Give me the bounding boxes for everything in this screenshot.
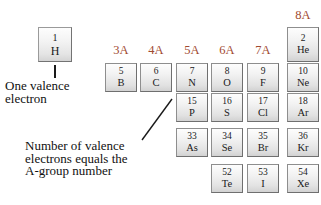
group-header-label: 3A xyxy=(113,43,128,57)
element-cell-bromine[interactable]: 35 Br xyxy=(247,128,279,157)
element-atomic-number: 33 xyxy=(187,132,197,142)
group-header-6a: 6A xyxy=(211,43,243,58)
agroup-note-line-3: A-group number xyxy=(25,165,128,178)
element-cell-phosphorus[interactable]: 15 P xyxy=(176,93,208,122)
element-atomic-number: 34 xyxy=(222,132,232,142)
agroup-annotation: Number of valence electrons equals the A… xyxy=(25,140,128,178)
element-cell-chlorine[interactable]: 17 Cl xyxy=(247,93,279,122)
element-symbol: Ar xyxy=(297,108,308,119)
element-cell-nitrogen[interactable]: 7 N xyxy=(176,63,208,92)
element-cell-boron[interactable]: 5 B xyxy=(105,63,137,92)
element-symbol: P xyxy=(189,108,195,119)
element-atomic-number: 36 xyxy=(298,132,308,142)
element-atomic-number: 10 xyxy=(298,67,308,77)
element-atomic-number: 17 xyxy=(258,97,268,107)
group-header-3a: 3A xyxy=(105,43,137,58)
element-symbol: Te xyxy=(222,179,232,190)
element-atomic-number: 7 xyxy=(190,67,195,77)
element-symbol: As xyxy=(186,143,198,154)
element-symbol: Kr xyxy=(297,143,308,154)
element-cell-selenium[interactable]: 34 Se xyxy=(211,128,243,157)
group-header-label: 7A xyxy=(255,43,270,57)
element-cell-oxygen[interactable]: 8 O xyxy=(211,63,243,92)
group-header-label: 6A xyxy=(219,43,234,57)
element-atomic-number: 53 xyxy=(258,168,268,178)
element-cell-carbon[interactable]: 6 C xyxy=(140,63,172,92)
element-atomic-number: 52 xyxy=(222,168,232,178)
element-symbol: S xyxy=(224,108,230,119)
element-symbol: Se xyxy=(222,143,233,154)
element-symbol: F xyxy=(260,78,266,89)
group-header-5a: 5A xyxy=(176,43,208,58)
element-symbol: O xyxy=(223,78,231,89)
group-header-7a: 7A xyxy=(247,43,279,58)
element-symbol: Ne xyxy=(297,78,309,89)
element-atomic-number: 1 xyxy=(53,33,58,43)
element-symbol: Br xyxy=(258,143,269,154)
element-cell-fluorine[interactable]: 9 F xyxy=(247,63,279,92)
group-header-label: 4A xyxy=(148,43,163,57)
element-symbol: Cl xyxy=(258,108,268,119)
group-header-8a: 8A xyxy=(287,8,319,23)
element-cell-argon[interactable]: 18 Ar xyxy=(287,93,319,122)
group-header-label: 5A xyxy=(184,43,199,57)
periodic-table-figure: 3A 4A 5A 6A 7A 8A 1 H 2 He 5 B 6 C 7 N 8… xyxy=(0,0,321,205)
hydrogen-leader-line xyxy=(54,65,56,78)
element-symbol: I xyxy=(261,179,265,190)
element-cell-hydrogen[interactable]: 1 H xyxy=(38,27,72,62)
element-symbol: N xyxy=(188,78,196,89)
element-symbol: He xyxy=(297,45,309,56)
element-cell-xenon[interactable]: 54 Xe xyxy=(287,164,319,193)
element-symbol: Xe xyxy=(297,179,309,190)
element-atomic-number: 35 xyxy=(258,132,268,142)
valence-electron-annotation: One valence electron xyxy=(5,80,70,105)
element-atomic-number: 8 xyxy=(225,67,230,77)
element-atomic-number: 18 xyxy=(298,97,308,107)
element-cell-arsenic[interactable]: 33 As xyxy=(176,128,208,157)
element-cell-neon[interactable]: 10 Ne xyxy=(287,63,319,92)
element-atomic-number: 2 xyxy=(301,34,306,44)
element-cell-krypton[interactable]: 36 Kr xyxy=(287,128,319,157)
valence-note-line-2: electron xyxy=(5,93,70,106)
element-cell-helium[interactable]: 2 He xyxy=(287,27,319,62)
element-atomic-number: 9 xyxy=(261,67,266,77)
element-symbol: H xyxy=(51,45,60,57)
element-atomic-number: 54 xyxy=(298,168,308,178)
element-symbol: C xyxy=(152,78,159,89)
group-header-4a: 4A xyxy=(140,43,172,58)
element-cell-sulfur[interactable]: 16 S xyxy=(211,93,243,122)
element-atomic-number: 6 xyxy=(154,67,159,77)
element-cell-iodine[interactable]: 53 I xyxy=(247,164,279,193)
element-cell-tellurium[interactable]: 52 Te xyxy=(211,164,243,193)
element-symbol: B xyxy=(117,78,124,89)
group-header-label: 8A xyxy=(295,8,310,22)
element-atomic-number: 15 xyxy=(187,97,197,107)
element-atomic-number: 16 xyxy=(222,97,232,107)
element-atomic-number: 5 xyxy=(119,67,124,77)
